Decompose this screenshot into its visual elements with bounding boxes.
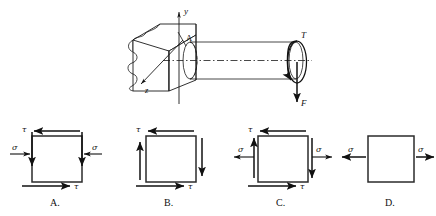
- stress-element-square: [258, 136, 308, 182]
- option-d-label: D.: [385, 197, 395, 208]
- option-c[interactable]: τ τ σ σ C.: [234, 125, 332, 208]
- sigma-label-right: σ: [92, 143, 98, 152]
- tau-label-top: τ: [22, 125, 27, 134]
- stress-element-square: [368, 136, 414, 182]
- torque-label: T: [301, 30, 307, 40]
- y-axis-label: y: [183, 6, 188, 16]
- sigma-label-left: σ: [12, 143, 18, 152]
- z-axis-label: z: [144, 85, 149, 95]
- tau-label-bottom: τ: [300, 182, 305, 191]
- stress-element-figure: z y A: [0, 0, 436, 216]
- figure-canvas: z y A: [0, 0, 436, 216]
- tau-label-top: τ: [248, 125, 253, 134]
- option-b[interactable]: τ τ B.: [136, 125, 202, 208]
- sigma-label-left: σ: [238, 145, 244, 154]
- stress-element-square: [32, 136, 82, 182]
- option-c-label: C.: [276, 197, 285, 208]
- cantilever-shaft-diagram: z y A: [128, 6, 312, 108]
- tau-label-top: τ: [136, 125, 141, 134]
- sigma-label-right: σ: [316, 145, 322, 154]
- stress-element-square: [146, 136, 196, 182]
- force-label: F: [300, 98, 307, 108]
- sigma-label-left: σ: [348, 145, 354, 154]
- option-d[interactable]: σ σ D.: [342, 136, 434, 208]
- option-a-label: A.: [50, 197, 60, 208]
- option-a[interactable]: τ τ σ σ A.: [10, 125, 102, 208]
- tau-label-bottom: τ: [188, 182, 193, 191]
- option-b-label: B.: [164, 197, 173, 208]
- sigma-label-right: σ: [418, 145, 424, 154]
- point-a-label: A: [186, 33, 193, 43]
- tau-label-bottom: τ: [74, 182, 79, 191]
